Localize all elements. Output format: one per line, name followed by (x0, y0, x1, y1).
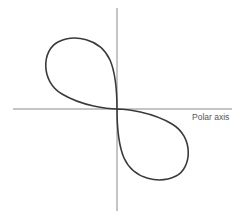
lower-right-lobe (117, 109, 188, 180)
polar-axis-label: Polar axis (192, 112, 229, 122)
polar-curve-diagram (0, 0, 246, 220)
upper-left-lobe (46, 38, 117, 109)
